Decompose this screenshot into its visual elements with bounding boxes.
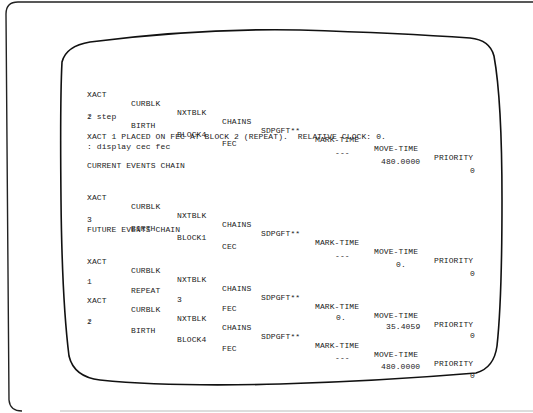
cell-move-time: 480.0000	[381, 157, 420, 166]
col-sdpgft: SDPGFT**	[261, 229, 300, 238]
cell-move-time: 35.4059	[386, 322, 420, 331]
col-xact: XACT	[87, 90, 107, 99]
cell-xact: 1	[87, 277, 92, 286]
col-priority: PRIORITY	[434, 256, 473, 265]
cec-title: CURRENT EVENTS CHAIN	[87, 161, 185, 170]
cell-chains: CEC	[222, 242, 237, 251]
col-priority: PRIORITY	[434, 359, 473, 368]
monitor-bezel	[0, 0, 533, 413]
cell-mark-time: ---	[335, 251, 350, 260]
col-nxtblk: NXTBLK	[177, 108, 206, 117]
table-row: 2 BIRTH BLOCK4 FEC --- 480.0000 0	[0, 103, 20, 184]
cell-curblk: BIRTH	[131, 326, 156, 335]
command-line-step: : step	[87, 112, 116, 121]
col-xact: XACT	[87, 257, 107, 266]
col-chains: CHAINS	[222, 284, 251, 293]
cell-curblk: REPEAT	[131, 286, 160, 295]
cell-priority: 0	[470, 331, 475, 340]
cell-chains: FEC	[222, 304, 237, 313]
cell-mark-time: ---	[335, 148, 350, 157]
col-nxtblk: NXTBLK	[177, 275, 206, 284]
cell-nxtblk: BLOCK1	[177, 233, 206, 242]
cell-priority: 0	[470, 371, 475, 380]
col-chains: CHAINS	[222, 323, 251, 332]
cell-move-time: 0.	[396, 260, 406, 269]
cell-mark-time: ---	[335, 353, 350, 362]
cell-chains: FEC	[222, 344, 237, 353]
col-nxtblk: NXTBLK	[177, 314, 206, 323]
col-move-time: MOVE-TIME	[374, 311, 418, 320]
command-line-display: : display cec fec	[87, 142, 170, 151]
table-row: 2 BIRTH BLOCK4 FEC --- 480.0000 0	[0, 308, 20, 389]
cell-nxtblk: BLOCK4	[177, 335, 206, 344]
cell-mark-time: 0.	[336, 313, 346, 322]
cell-curblk: BIRTH	[131, 121, 156, 130]
col-mark-time: MARK-TIME	[315, 238, 359, 247]
command-prompt[interactable]: :	[87, 317, 92, 326]
col-curblk: CURBLK	[131, 305, 160, 314]
status-message: XACT 1 PLACED ON FEC AT BLOCK 2 (REPEAT)…	[87, 132, 386, 141]
col-curblk: CURBLK	[131, 202, 160, 211]
col-curblk: CURBLK	[131, 99, 160, 108]
cell-priority: 0	[470, 166, 475, 175]
col-sdpgft: SDPGFT**	[261, 293, 300, 302]
col-curblk: CURBLK	[131, 266, 160, 275]
cell-nxtblk: 3	[177, 295, 182, 304]
cell-priority: 0	[470, 269, 475, 278]
cell-xact: 3	[87, 215, 92, 224]
outer-frame	[6, 2, 533, 411]
col-nxtblk: NXTBLK	[177, 211, 206, 220]
col-mark-time: MARK-TIME	[315, 302, 359, 311]
col-priority: PRIORITY	[434, 320, 473, 329]
fec-title: FUTURE EVENTS CHAIN	[87, 225, 180, 234]
col-xact: XACT	[87, 296, 107, 305]
col-chains: CHAINS	[222, 220, 251, 229]
col-sdpgft: SDPGFT**	[261, 332, 300, 341]
col-move-time: MOVE-TIME	[374, 247, 418, 256]
col-chains: CHAINS	[222, 117, 251, 126]
col-xact: XACT	[87, 193, 107, 202]
col-move-time: MOVE-TIME	[374, 144, 418, 153]
col-priority: PRIORITY	[434, 153, 473, 162]
cell-move-time: 480.0000	[381, 362, 420, 371]
col-move-time: MOVE-TIME	[374, 350, 418, 359]
col-mark-time: MARK-TIME	[315, 341, 359, 350]
